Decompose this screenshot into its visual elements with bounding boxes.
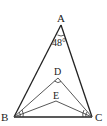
label-d: D <box>54 66 61 77</box>
segment-cd <box>58 78 92 117</box>
angle-arc-d <box>55 81 62 83</box>
label-b: B <box>1 111 8 123</box>
segment-ce <box>56 101 92 117</box>
label-a: A <box>57 12 65 24</box>
label-e: E <box>53 90 59 101</box>
triangle-diagram: A 48° D E B C <box>0 0 107 126</box>
label-c: C <box>95 111 102 123</box>
angle-arc-a <box>58 35 65 36</box>
segment-bd <box>14 78 58 117</box>
angle-label-48: 48° <box>52 37 66 48</box>
